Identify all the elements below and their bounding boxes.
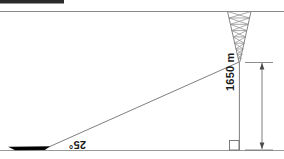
black-header-bar [0, 0, 64, 4]
boat-hull-inner [11, 147, 46, 150]
height-dimension-line [245, 63, 273, 151]
right-angle-marker [230, 141, 240, 151]
dimension-arrow-bottom [260, 143, 265, 150]
diagram-svg [0, 0, 284, 159]
height-label: 1650 m [224, 52, 236, 91]
angle-label: 25° [69, 139, 86, 151]
dimension-arrow-top [260, 63, 265, 70]
line-of-sight [42, 62, 239, 150]
diagram-canvas: 1650 m 25° [0, 0, 284, 159]
boat-silhouette [8, 146, 50, 150]
